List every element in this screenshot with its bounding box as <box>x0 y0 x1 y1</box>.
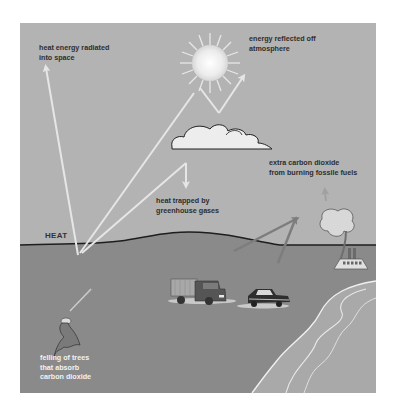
label-felling-trees: felling of trees that absorb carbon diox… <box>40 353 91 382</box>
label-heat-trapped: heat trapped by greenhouse gases <box>156 196 219 215</box>
smoke-cloud <box>320 209 354 236</box>
arrow-reflected <box>219 77 243 113</box>
label-heat-radiated: heat energy radiated into space <box>39 43 109 62</box>
label-extra-co2: extra carbon dioxide from burning fossil… <box>269 158 357 177</box>
cloud-icon <box>172 125 272 149</box>
greenhouse-diagram: heat energy radiated into space energy r… <box>20 23 376 393</box>
label-heat: HEAT <box>45 231 67 241</box>
arrow-sun-to-ground <box>80 93 194 253</box>
arrow-heat-to-space <box>46 68 78 255</box>
arrow-factory-emission <box>325 191 326 201</box>
label-energy-reflected: energy reflected off atmosphere <box>249 34 316 53</box>
sun-icon <box>180 33 240 93</box>
